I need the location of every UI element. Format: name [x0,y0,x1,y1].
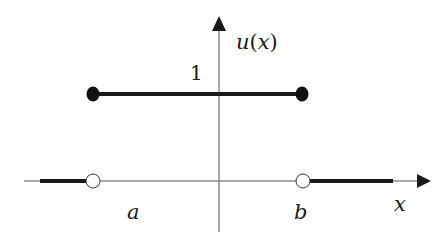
function-label: u(x) [236,30,278,54]
open-point-b [296,174,310,188]
y-axis-arrow-icon [212,16,226,31]
point-label-a: a [127,200,140,224]
pulse-function-diagram: u(x) 1 a b x [0,0,448,237]
y-axis [212,16,226,232]
x-axis-label: x [394,192,406,216]
point-label-b: b [294,200,307,224]
x-axis-arrow-icon [417,174,431,188]
filled-point-b [296,87,309,102]
y-tick-label-one: 1 [190,61,203,85]
filled-point-a [87,87,100,102]
open-point-a [86,174,100,188]
